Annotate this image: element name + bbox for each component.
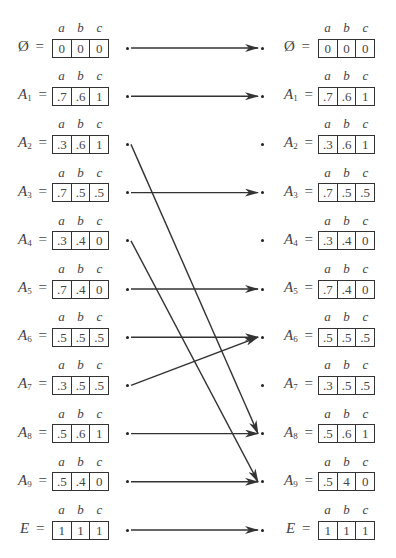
right-node-dot bbox=[261, 480, 264, 483]
set-subscript: 3 bbox=[293, 190, 298, 200]
set-subscript: 8 bbox=[27, 431, 32, 441]
equals-sign: = bbox=[35, 472, 47, 488]
column-letter-c: c bbox=[356, 454, 375, 470]
membership-value-a: .7 bbox=[53, 88, 72, 105]
set-name: A bbox=[18, 424, 27, 440]
column-letter-c: c bbox=[356, 213, 375, 229]
column-letter-b: b bbox=[71, 116, 90, 132]
left-membership-box: .7.40 bbox=[52, 280, 109, 299]
right-set-label: A5 = bbox=[284, 279, 313, 296]
set-name: A bbox=[284, 183, 293, 199]
set-name: A bbox=[284, 86, 293, 102]
equals-sign: = bbox=[301, 183, 313, 199]
membership-value-a: .5 bbox=[319, 329, 338, 346]
right-node-dot bbox=[261, 239, 264, 242]
membership-value-c: .5 bbox=[90, 329, 108, 346]
left-node-dot bbox=[126, 143, 129, 146]
column-letter-b: b bbox=[337, 213, 356, 229]
left-membership-box: .7.5.5 bbox=[52, 183, 109, 202]
column-letters: abc bbox=[318, 20, 375, 36]
left-set-label: A3 = bbox=[18, 183, 47, 200]
set-name: A bbox=[284, 472, 293, 488]
equals-sign: = bbox=[35, 279, 47, 295]
column-letters: abc bbox=[318, 309, 375, 325]
column-letter-b: b bbox=[71, 406, 90, 422]
column-letter-b: b bbox=[71, 309, 90, 325]
right-node-dot bbox=[261, 95, 264, 98]
equals-sign: = bbox=[35, 134, 47, 150]
column-letter-b: b bbox=[71, 357, 90, 373]
column-letter-a: a bbox=[52, 20, 71, 36]
column-letter-a: a bbox=[318, 406, 337, 422]
left-membership-box: 000 bbox=[52, 39, 109, 58]
column-letter-c: c bbox=[90, 502, 109, 518]
membership-value-c: 0 bbox=[90, 281, 108, 298]
equals-sign: = bbox=[301, 375, 313, 391]
column-letters: abc bbox=[52, 261, 109, 277]
set-subscript: 4 bbox=[293, 238, 298, 248]
right-set-label: A4 = bbox=[284, 231, 313, 248]
column-letter-b: b bbox=[337, 406, 356, 422]
right-set-label: A6 = bbox=[284, 327, 313, 344]
membership-value-c: .5 bbox=[90, 184, 108, 201]
membership-value-c: 1 bbox=[90, 522, 108, 539]
column-letters: abc bbox=[52, 357, 109, 373]
membership-value-a: .3 bbox=[319, 232, 338, 249]
equals-sign: = bbox=[35, 424, 47, 440]
equals-sign: = bbox=[35, 86, 47, 102]
right-set-label: E = bbox=[286, 520, 310, 537]
left-membership-box: .7.61 bbox=[52, 87, 109, 106]
column-letters: abc bbox=[52, 309, 109, 325]
column-letter-c: c bbox=[90, 20, 109, 36]
equals-sign: = bbox=[301, 424, 313, 440]
column-letter-c: c bbox=[90, 406, 109, 422]
left-set-label: A8 = bbox=[18, 424, 47, 441]
column-letter-b: b bbox=[337, 502, 356, 518]
column-letters: abc bbox=[52, 116, 109, 132]
column-letter-a: a bbox=[318, 357, 337, 373]
column-letter-a: a bbox=[318, 68, 337, 84]
left-node-dot bbox=[126, 95, 129, 98]
left-set-label: A4 = bbox=[18, 231, 47, 248]
left-set-label: A2 = bbox=[18, 134, 47, 151]
equals-sign: = bbox=[301, 472, 313, 488]
set-name: A bbox=[284, 327, 293, 343]
membership-value-b: .6 bbox=[338, 88, 357, 105]
column-letter-a: a bbox=[52, 116, 71, 132]
equals-sign: = bbox=[32, 38, 44, 54]
left-membership-box: 111 bbox=[52, 521, 109, 540]
equals-sign: = bbox=[298, 38, 310, 54]
right-membership-box: 111 bbox=[318, 521, 375, 540]
set-name: A bbox=[284, 375, 293, 391]
membership-value-c: 0 bbox=[90, 40, 108, 57]
column-letters: abc bbox=[52, 502, 109, 518]
membership-value-b: .5 bbox=[72, 329, 91, 346]
membership-value-b: .5 bbox=[338, 184, 357, 201]
membership-value-a: .7 bbox=[53, 184, 72, 201]
set-subscript: 3 bbox=[27, 190, 32, 200]
membership-value-a: .3 bbox=[319, 377, 338, 394]
membership-value-a: .3 bbox=[53, 136, 72, 153]
left-node-dot bbox=[126, 336, 129, 339]
membership-value-c: .5 bbox=[90, 377, 108, 394]
mapping-arrow bbox=[131, 144, 258, 433]
column-letter-a: a bbox=[318, 261, 337, 277]
set-subscript: 2 bbox=[293, 141, 298, 151]
set-subscript: 7 bbox=[293, 382, 298, 392]
set-subscript: 1 bbox=[27, 93, 32, 103]
membership-value-c: 0 bbox=[90, 232, 108, 249]
membership-value-b: .6 bbox=[72, 425, 91, 442]
right-membership-box: .3.5.5 bbox=[318, 376, 375, 395]
left-membership-box: .3.40 bbox=[52, 231, 109, 250]
membership-value-b: .5 bbox=[338, 377, 357, 394]
right-node-dot bbox=[261, 47, 264, 50]
left-node-dot bbox=[126, 47, 129, 50]
set-name: A bbox=[18, 231, 27, 247]
column-letter-a: a bbox=[318, 309, 337, 325]
column-letter-b: b bbox=[71, 165, 90, 181]
column-letters: abc bbox=[318, 357, 375, 373]
column-letter-a: a bbox=[318, 502, 337, 518]
equals-sign: = bbox=[35, 231, 47, 247]
column-letter-b: b bbox=[71, 454, 90, 470]
left-membership-box: .5.5.5 bbox=[52, 328, 109, 347]
